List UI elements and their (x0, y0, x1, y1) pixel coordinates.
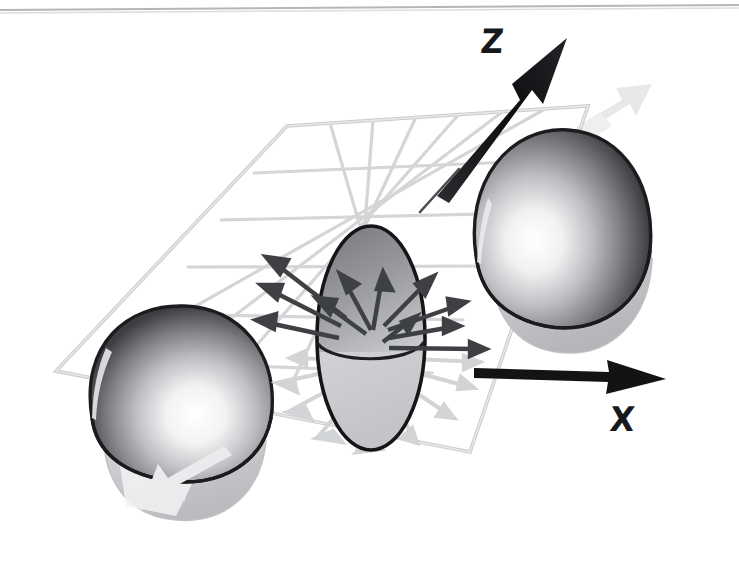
axis-label-x: X (609, 402, 637, 436)
left-lobe (90, 306, 272, 520)
diagram-svg (0, 0, 739, 574)
x-axis-arrow (474, 360, 666, 394)
page-scan-rule (0, 5, 739, 13)
figure-canvas: Z X (0, 0, 739, 574)
right-lobe (474, 130, 652, 353)
axis-label-z: Z (479, 25, 505, 58)
